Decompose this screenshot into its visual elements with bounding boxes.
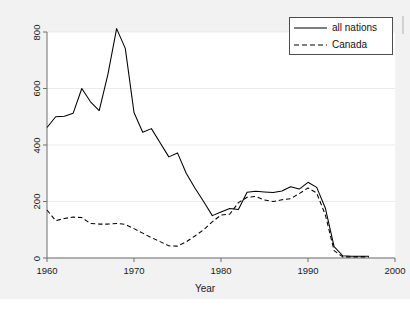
legend-item-all-nations: all nations (294, 20, 377, 36)
y-tick-label-200: 200 (32, 188, 43, 216)
y-tick-label-400: 400 (32, 131, 43, 159)
x-tick-label-2000: 2000 (378, 266, 410, 276)
y-tick-label-600: 600 (32, 75, 43, 103)
y-tick-label-800: 800 (32, 18, 43, 46)
series-line-canada (47, 188, 369, 257)
x-tick-label-1990: 1990 (291, 266, 325, 276)
x-tick-label-1980: 1980 (204, 266, 238, 276)
right-edge-mark (402, 16, 404, 34)
legend-key-dashed-line (294, 40, 327, 50)
legend-item-canada: Canada (294, 37, 367, 53)
legend-label-canada: Canada (332, 40, 367, 50)
legend-label-all-nations: all nations (332, 23, 377, 33)
legend-key-solid-line (294, 23, 327, 33)
x-axis-title: Year (0, 283, 410, 294)
data-series (47, 29, 369, 257)
series-line-all-nations (47, 29, 369, 257)
axis-ticks (43, 32, 395, 262)
x-tick-label-1960: 1960 (30, 266, 64, 276)
legend: all nations Canada (289, 17, 393, 55)
x-tick-label-1970: 1970 (117, 266, 151, 276)
chart-page: 0200400600800 19601970198019902000 Year … (0, 0, 410, 311)
